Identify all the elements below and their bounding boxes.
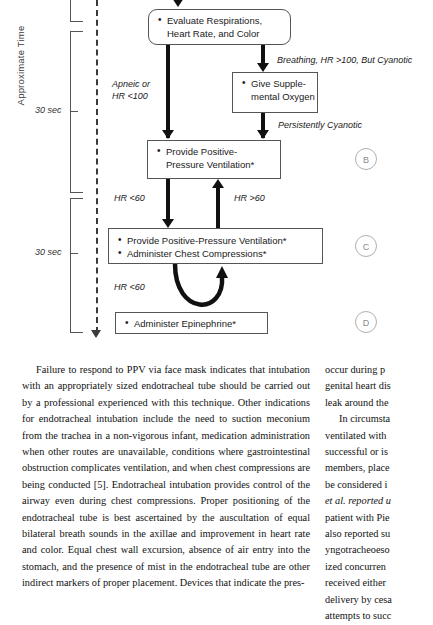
body-right-line-3: In circumsta [325,411,433,427]
box-administer-epinephrine[interactable]: Administer Epinephrine* [115,312,268,334]
body-right-line-11: yngotracheoeso [325,542,433,558]
body-right-line-14: delivery by cesa [325,592,433,608]
resuscitation-flowchart: Approximate Time 30 sec 30 sec Evaluate … [0,0,433,355]
body-column-left: Failure to respond to PPV via face mask … [22,362,310,592]
body-right-line-15: attempts to succ [325,608,433,624]
body-right-line-12: ized concurren [325,559,433,575]
body-right-line-10: also reported su [325,526,433,542]
body-column-right: occur during p genital heart dis leak ar… [325,362,433,625]
body-right-line-5: successful or is [325,444,433,460]
body-right-line-2: leak around the [325,395,433,411]
body-right-line-9: patient with Pie [325,510,433,526]
edge-label-hr-lt60-lower: HR <60 [114,281,145,293]
body-right-line-1: genital heart dis [325,378,433,394]
circle-tag-d: D [355,311,377,333]
body-right-line-8: et al. reported u [325,493,433,509]
body-right-line-6: members, place [325,460,433,476]
body-right-line-7: be considered i [325,477,433,493]
box-epinephrine-item-0: Administer Epinephrine* [134,317,259,330]
arrow-curved-epinephrine-loop [0,0,433,355]
article-body: Failure to respond to PPV via face mask … [0,362,433,618]
body-right-line-4: ventilated with [325,428,433,444]
circle-tag-c: C [355,235,377,257]
circle-tag-b: B [355,148,377,170]
body-right-line-13: received either [325,575,433,591]
body-paragraph-left: Failure to respond to PPV via face mask … [22,362,310,592]
body-right-line-0: occur during p [325,362,433,378]
